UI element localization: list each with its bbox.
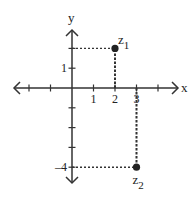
x-tick-label: 2 xyxy=(112,92,118,106)
axes: x y xyxy=(14,10,188,183)
axis-ticks xyxy=(29,48,158,167)
guide-lines xyxy=(72,48,137,167)
y-tick-label: –4 xyxy=(54,160,67,174)
point-marker xyxy=(133,164,140,171)
point-label: z1 xyxy=(118,32,129,51)
x-axis-label: x xyxy=(181,80,188,95)
tick-labels: 1231–4 xyxy=(54,61,140,174)
y-axis-label: y xyxy=(68,10,75,25)
point-label: z2 xyxy=(133,172,144,191)
x-tick-label: 1 xyxy=(91,92,97,106)
y-tick-label: 1 xyxy=(61,61,67,75)
coordinate-plane: x y 1231–4 z1z2 xyxy=(0,0,196,201)
x-tick-label: 3 xyxy=(134,92,140,106)
